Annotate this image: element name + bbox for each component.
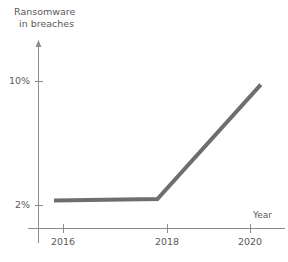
chart-plot-area — [0, 0, 288, 262]
x-axis-title: Year — [253, 210, 272, 222]
data-series-line — [54, 85, 261, 201]
y-axis-title: Ransomware in breaches — [14, 6, 75, 30]
arrow-up-icon — [36, 40, 42, 47]
y-axis-title-line1: Ransomware — [14, 6, 75, 17]
y-axis-title-line2: in breaches — [14, 18, 75, 30]
ytick-label-2-percent: 2% — [2, 199, 30, 210]
xtick-label-2016: 2016 — [43, 236, 83, 247]
xtick-label-2018: 2018 — [147, 236, 187, 247]
ransomware-line-chart: Ransomware in breaches Year 10% 2% 2016 … — [0, 0, 288, 262]
ytick-label-10-percent: 10% — [2, 75, 30, 86]
xtick-label-2020: 2020 — [230, 236, 270, 247]
